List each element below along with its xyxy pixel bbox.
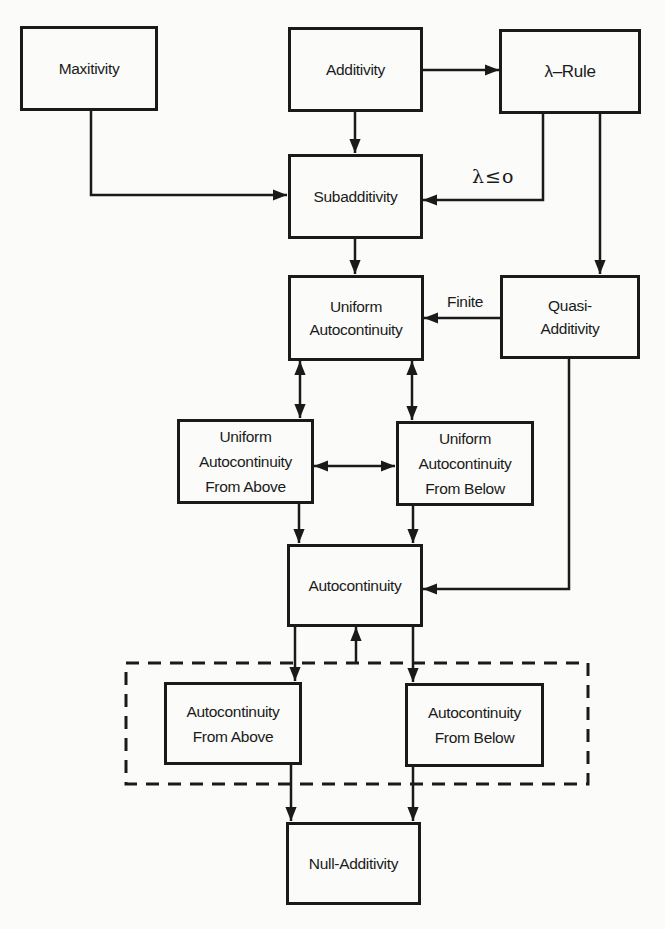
node-label: Autocontinuity: [308, 574, 401, 597]
node-label: Autocontinuity From Below: [428, 700, 521, 750]
edge-maxitivity-subadditivity: [91, 110, 287, 195]
node-label: λ–Rule: [544, 60, 595, 83]
node-label: Quasi- Additivity: [540, 294, 599, 340]
node-ua-from-below: Uniform Autocontinuity From Below: [396, 421, 534, 506]
edge-label-lambda-condition: λ≤o: [472, 165, 514, 187]
node-subadditivity: Subadditivity: [288, 154, 423, 239]
node-label: Null-Additivity: [309, 852, 398, 875]
node-label: Additivity: [326, 58, 385, 81]
node-ac-from-below: Autocontinuity From Below: [405, 683, 544, 767]
node-label: Uniform Autocontinuity: [309, 295, 402, 341]
node-label: Maxitivity: [59, 57, 120, 80]
node-null-additivity: Null-Additivity: [286, 822, 421, 905]
node-autocontinuity: Autocontinuity: [287, 544, 423, 627]
node-label: Uniform Autocontinuity From Above: [199, 424, 292, 499]
node-uniform-autocontinuity: Uniform Autocontinuity: [288, 275, 424, 361]
edges-layer: [0, 0, 665, 929]
node-label: Subadditivity: [314, 185, 398, 208]
node-quasi-additivity: Quasi- Additivity: [500, 275, 640, 359]
node-additivity: Additivity: [288, 27, 423, 112]
node-maxitivity: Maxitivity: [20, 26, 158, 111]
implication-diagram: Maxitivity Additivity λ–Rule Subadditivi…: [0, 0, 665, 929]
node-ua-from-above: Uniform Autocontinuity From Above: [177, 419, 314, 504]
node-label: Autocontinuity From Above: [186, 699, 279, 749]
node-label: Uniform Autocontinuity From Below: [418, 426, 511, 501]
node-ac-from-above: Autocontinuity From Above: [164, 682, 302, 765]
edge-label-finite: Finite: [447, 293, 483, 311]
node-lambda-rule: λ–Rule: [499, 29, 641, 114]
